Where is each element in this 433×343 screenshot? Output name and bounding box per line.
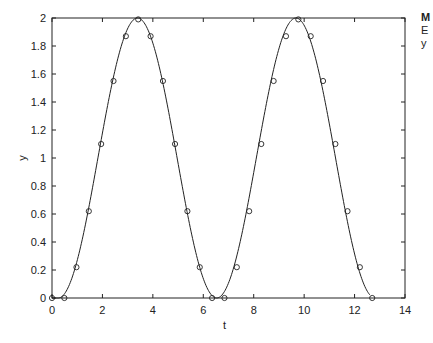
x-tick-label: 14 — [399, 304, 411, 316]
edge-text-2: E — [421, 25, 428, 36]
y-tick-label: 0.6 — [31, 208, 46, 220]
y-tick-label: 1.8 — [31, 40, 46, 52]
y-tick-label: 1.2 — [31, 124, 46, 136]
x-tick-label: 6 — [200, 304, 206, 316]
y-tick-label: 1 — [40, 152, 46, 164]
x-tick-label: 12 — [348, 304, 360, 316]
sample-marker — [234, 265, 239, 270]
x-tick-label: 8 — [251, 304, 257, 316]
x-axis-label: t — [223, 319, 226, 331]
y-tick-label: 0.4 — [31, 236, 46, 248]
chart-plot: 0246810121400.20.40.60.811.21.41.61.82ty — [0, 0, 433, 343]
x-tick-label: 10 — [298, 304, 310, 316]
curve-line — [52, 18, 370, 298]
y-axis-label: y — [16, 155, 28, 161]
x-tick-label: 2 — [99, 304, 105, 316]
x-tick-label: 4 — [150, 304, 156, 316]
sample-marker — [247, 209, 252, 214]
edge-text-1: M — [421, 12, 430, 23]
sample-marker — [74, 265, 79, 270]
sample-marker — [271, 78, 276, 83]
plot-frame — [52, 18, 405, 298]
y-tick-label: 1.4 — [31, 96, 46, 108]
y-tick-label: 2 — [40, 12, 46, 24]
y-tick-label: 1.6 — [31, 68, 46, 80]
y-tick-label: 0.2 — [31, 264, 46, 276]
y-tick-label: 0.8 — [31, 180, 46, 192]
x-tick-label: 0 — [49, 304, 55, 316]
edge-text-3: y — [421, 38, 427, 49]
sample-marker — [259, 141, 264, 146]
sample-marker — [111, 78, 116, 83]
sample-marker — [283, 34, 288, 39]
sample-marker — [333, 141, 338, 146]
y-tick-label: 0 — [40, 292, 46, 304]
